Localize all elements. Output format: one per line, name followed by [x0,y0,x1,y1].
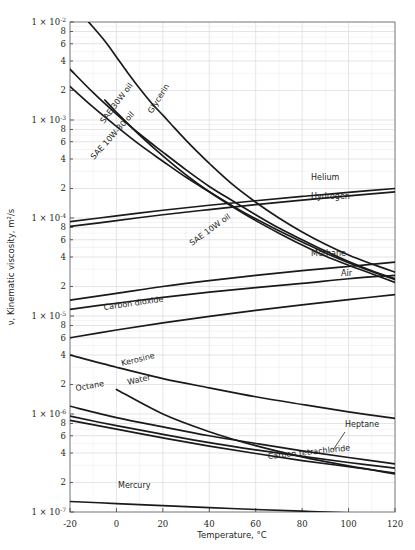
curve-label-air: Air [341,269,353,278]
curve-label-helium: Helium [311,173,339,182]
y-tick-minor: 6 [61,333,66,343]
curve-label-mercury: Mercury [118,481,151,490]
y-tick-minor: 8 [61,222,66,232]
x-tick-label: 120 [387,519,403,529]
viscosity-temperature-chart: 1 × 10-21 × 10-386421 × 10-486421 × 10-5… [0,0,415,550]
y-tick-minor: 6 [61,137,66,147]
x-tick-label: 0 [114,519,119,529]
x-tick-label: 40 [204,519,215,529]
y-tick-minor: 6 [61,431,66,441]
y-tick-minor: 2 [61,183,66,193]
y-tick-minor: 8 [61,26,66,36]
y-tick-minor: 8 [61,418,66,428]
y-tick-minor: 8 [61,320,66,330]
y-tick-minor: 6 [61,39,66,49]
x-tick-label: 100 [340,519,356,529]
y-tick-minor: 4 [61,350,66,360]
y-tick-minor: 4 [61,252,66,262]
x-tick-label: 60 [250,519,261,529]
x-tick-label: 20 [157,519,168,529]
y-tick-minor: 4 [61,448,66,458]
y-tick-minor: 2 [61,281,66,291]
y-tick-minor: 2 [61,85,66,95]
y-tick-minor: 8 [61,124,66,134]
curve-label-heptane: Heptane [345,420,379,429]
y-axis-title: ν, Kinematic viscosity, m²/s [6,208,16,325]
y-tick-minor: 2 [61,477,66,487]
y-tick-minor: 4 [61,56,66,66]
curve-label-hydrogen: Hydrogen [311,192,350,201]
x-axis-title: Temperature, °C [196,530,266,540]
curve-label-methane: Methane [311,249,346,258]
y-tick-minor: 6 [61,235,66,245]
x-tick-label: -20 [63,519,77,529]
x-tick-label: 80 [297,519,308,529]
y-tick-minor: 2 [61,379,66,389]
y-tick-minor: 4 [61,154,66,164]
